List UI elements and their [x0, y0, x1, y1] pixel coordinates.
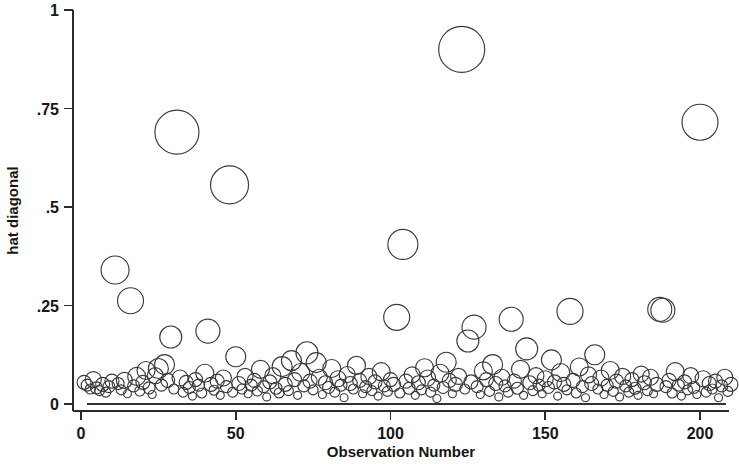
bubble-marker — [211, 166, 249, 204]
y-tick-label: 0 — [50, 396, 59, 413]
bubble-marker — [557, 298, 583, 324]
bubble-marker — [557, 377, 571, 391]
bubble-marker — [554, 392, 562, 400]
bubble-marker — [516, 338, 538, 360]
bubble-marker — [495, 393, 503, 401]
y-tick-label: .5 — [46, 199, 59, 216]
bubble-marker — [160, 326, 182, 348]
bubble-marker — [348, 384, 358, 394]
bubble-marker — [216, 391, 224, 399]
bubble-marker — [616, 393, 624, 401]
bubble-marker — [387, 377, 401, 391]
bubble-marker — [523, 376, 537, 390]
bubble-marker — [511, 360, 529, 378]
y-tick-label: .25 — [37, 298, 59, 315]
bubble-marker — [281, 351, 301, 371]
bubble-marker — [335, 379, 347, 391]
x-axis-title: Observation Number — [327, 443, 476, 460]
x-tick-label: 50 — [227, 425, 245, 442]
bubble-marker — [600, 391, 608, 399]
bubble-marker — [118, 288, 144, 314]
x-tick-label: 100 — [377, 425, 404, 442]
bubble-marker — [474, 362, 492, 380]
bubble-marker — [294, 391, 302, 399]
bubble-marker — [340, 394, 348, 402]
x-tick-label: 0 — [77, 425, 86, 442]
bubble-markers-layer — [77, 26, 738, 402]
bubble-marker — [701, 387, 711, 397]
bubble-marker — [571, 388, 581, 398]
bubble-marker — [374, 392, 382, 400]
bubble-marker — [399, 374, 413, 388]
bubble-marker — [77, 375, 91, 389]
bubble-marker — [457, 330, 479, 352]
bubble-marker — [101, 256, 129, 284]
bubble-marker — [263, 393, 271, 401]
bubble-marker — [667, 388, 677, 398]
bubble-marker — [485, 386, 495, 396]
bubble-marker — [411, 391, 419, 399]
bubble-marker — [323, 360, 341, 378]
y-tick-label: 1 — [50, 2, 59, 19]
axes-layer — [64, 10, 729, 420]
bubble-marker — [724, 377, 738, 391]
bubble-marker — [634, 391, 642, 399]
bubble-marker — [272, 357, 292, 377]
bubble-marker — [196, 319, 220, 343]
bubble-marker — [433, 394, 441, 402]
bubble-marker — [439, 26, 485, 72]
bubble-marker — [693, 391, 701, 399]
bubble-marker — [188, 392, 196, 400]
bubble-marker — [715, 394, 723, 402]
scatter-plot-canvas: 0.25.5.751050100150200Observation Number… — [0, 0, 739, 464]
bubble-marker — [520, 391, 528, 399]
bubble-marker — [462, 315, 486, 339]
bubble-marker — [359, 390, 367, 398]
x-tick-label: 150 — [532, 425, 559, 442]
y-axis-title: hat diagonal — [4, 166, 21, 254]
y-tick-label: .75 — [37, 101, 59, 118]
bubble-marker — [585, 377, 599, 391]
x-tick-label: 200 — [687, 425, 714, 442]
bubble-marker — [232, 377, 246, 391]
bubble-marker — [682, 104, 718, 140]
bubble-marker — [541, 350, 561, 370]
bubble-marker — [538, 390, 546, 398]
bubble-marker — [489, 377, 503, 391]
bubble-marker — [155, 355, 175, 375]
bubble-marker — [388, 229, 418, 259]
bubble-marker — [384, 304, 410, 330]
bubble-marker — [436, 352, 456, 372]
bubble-marker — [308, 385, 318, 395]
bubble-marker — [155, 110, 199, 154]
bubble-marker — [581, 394, 589, 402]
bubble-marker — [343, 377, 357, 391]
bubble-marker — [148, 391, 156, 399]
bubble-marker — [585, 345, 605, 365]
bubble-marker — [499, 307, 523, 331]
bubble-marker — [226, 347, 246, 367]
leverage-plot-figure: 0.25.5.751050100150200Observation Number… — [0, 0, 739, 464]
bubble-marker — [197, 388, 207, 398]
